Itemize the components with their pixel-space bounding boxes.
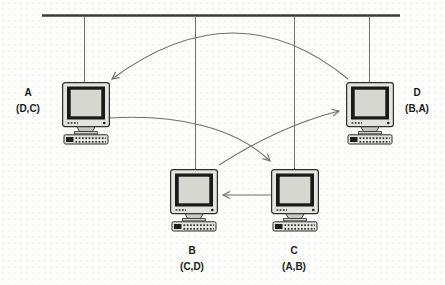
node-b-label: B	[188, 245, 195, 256]
network-diagram: A (D,C) B (C,D) C (A,B) D (B,A)	[0, 0, 445, 285]
node-d-sublabel: (B,A)	[405, 103, 429, 114]
node-c-sublabel: (A,B)	[282, 261, 306, 272]
computer-a	[63, 83, 110, 144]
arrow-d-to-a	[112, 33, 348, 79]
node-a-sublabel: (D,C)	[16, 103, 40, 114]
computer-d	[347, 83, 394, 144]
node-b-sublabel: (C,D)	[180, 261, 204, 272]
computer-b	[171, 170, 218, 231]
computer-c	[272, 170, 319, 231]
arrow-a-to-c	[110, 117, 270, 161]
diagram-canvas: A (D,C) B (C,D) C (A,B) D (B,A)	[0, 0, 445, 285]
node-a-label: A	[24, 87, 31, 98]
node-d-label: D	[413, 87, 420, 98]
node-c-label: C	[290, 245, 297, 256]
